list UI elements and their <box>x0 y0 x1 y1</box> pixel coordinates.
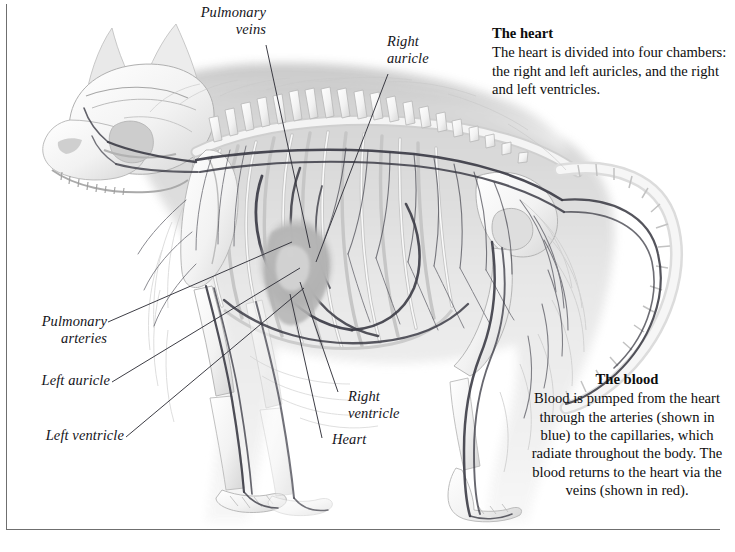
label-pulmonary-veins: Pulmonary veins <box>152 4 266 38</box>
label-left-auricle: Left auricle <box>0 372 110 389</box>
note-the-blood-body: Blood is pumped from the heart through t… <box>524 389 730 499</box>
label-right-ventricle: Right ventricle <box>348 388 438 422</box>
frame-left-rule <box>6 4 7 530</box>
label-right-auricle: Right auricle <box>387 33 487 67</box>
frame-bottom-rule <box>6 529 720 530</box>
note-the-blood: The blood Blood is pumped from the heart… <box>524 370 730 499</box>
label-left-ventricle: Left ventricle <box>0 427 124 444</box>
fur-wisps-chest <box>149 200 187 422</box>
note-the-blood-title: The blood <box>524 370 730 388</box>
note-the-heart: The heart The heart is divided into four… <box>492 24 730 98</box>
figure-page: Pulmonary veins Right auricle Pulmonary … <box>0 0 735 552</box>
label-heart: Heart <box>332 431 402 448</box>
label-pulmonary-arteries: Pulmonary arteries <box>0 313 107 347</box>
note-the-heart-title: The heart <box>492 24 730 42</box>
note-the-heart-body: The heart is divided into four chambers:… <box>492 43 730 98</box>
